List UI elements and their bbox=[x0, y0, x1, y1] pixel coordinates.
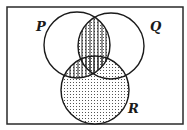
label-p: P bbox=[35, 19, 47, 34]
venn-diagram: P Q R bbox=[0, 0, 187, 130]
label-r: R bbox=[127, 101, 139, 116]
label-q: Q bbox=[150, 19, 162, 34]
